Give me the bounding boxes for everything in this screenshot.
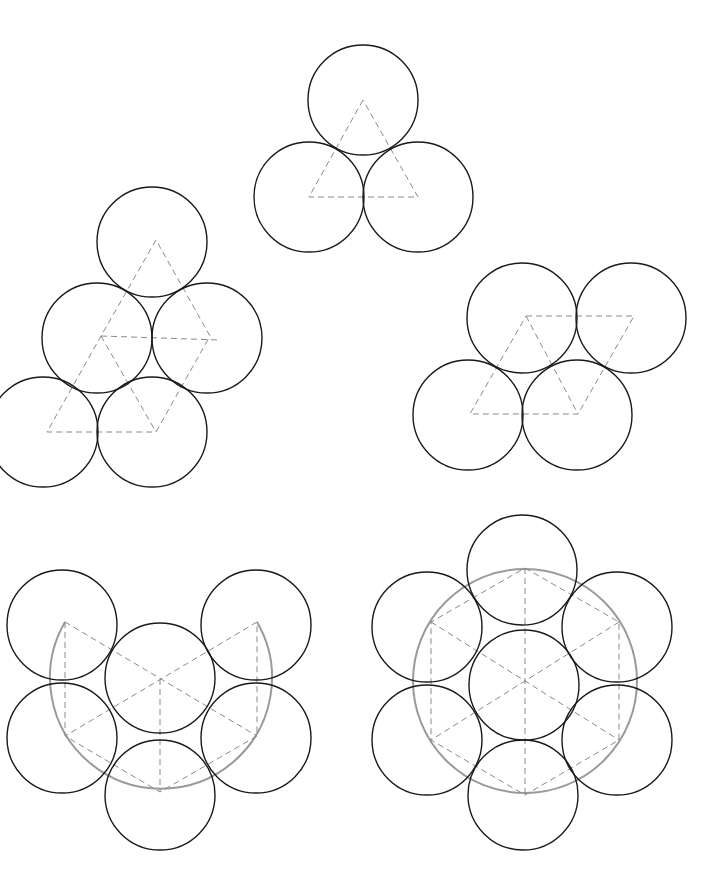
packed-circle (469, 630, 579, 740)
figures-layer (0, 45, 686, 850)
packed-circle (42, 283, 152, 393)
circle-packing-diagram (0, 0, 721, 882)
dashed-lattice-line (101, 336, 156, 432)
dashed-lattice-line (101, 336, 220, 340)
packed-circle (7, 683, 117, 793)
packed-circle (522, 360, 632, 470)
packed-circle (576, 263, 686, 373)
dashed-lattice-line (309, 100, 418, 197)
figure-seven-circles-hexagon (372, 515, 672, 850)
dashed-lattice-line (526, 316, 578, 414)
packed-circle (372, 685, 482, 795)
packed-circle (201, 570, 311, 680)
packed-circle (97, 187, 207, 297)
packed-circle (7, 570, 117, 680)
figure-four-circles-parallelogram (413, 263, 686, 470)
packed-circle (562, 685, 672, 795)
guide-arc (50, 622, 272, 789)
packed-circle (105, 740, 215, 850)
figure-five-circles-rhombus (0, 187, 262, 487)
packed-circle (413, 360, 523, 470)
figure-three-circles (254, 45, 473, 252)
packed-circle (468, 740, 578, 850)
packed-circle (201, 683, 311, 793)
packed-circle (562, 572, 672, 682)
dashed-lattice-line (47, 240, 210, 432)
packed-circle (467, 263, 577, 373)
packed-circle (152, 283, 262, 393)
figure-six-circles-open-hexagon (7, 570, 311, 850)
